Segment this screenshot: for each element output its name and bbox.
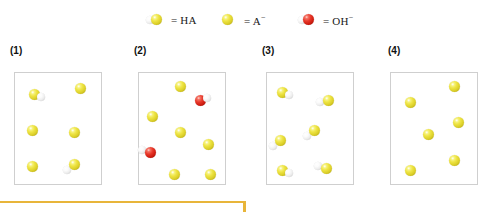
legend-item-label: = HA [171,14,197,26]
yellow-sphere [27,125,38,136]
yellow-sphere [169,169,180,180]
yellow-sphere [449,155,460,166]
yellow-sphere [321,163,332,174]
yellow-sphere [175,127,186,138]
legend-item-label: = A− [244,13,266,27]
yellow-sphere [175,81,186,92]
red-sphere [145,147,156,158]
panel-label-2: (2) [134,45,146,56]
legend-oh-icon [297,12,319,28]
red-sphere [303,14,314,25]
yellow-sphere [405,97,416,108]
particle-a-anion [449,81,471,99]
legend-item-label: = OH− [323,13,353,27]
yellow-sphere [147,111,158,122]
yellow-sphere [449,81,460,92]
yellow-sphere [405,165,416,176]
legend-item-ha: = HA [145,10,197,30]
particle-ha-molecule [321,163,343,181]
yellow-sphere [323,95,334,106]
particle-a-anion [405,97,427,115]
particle-a-anion [423,129,445,147]
yellow-sphere [27,161,38,172]
particle-a-anion [449,155,471,173]
yellow-sphere [309,125,320,136]
legend-a-icon [218,12,240,28]
particle-a-anion [205,169,227,187]
particle-a-anion [27,125,49,143]
white-sphere [285,169,293,177]
particle-a-anion [405,165,427,183]
particle-oh-anion [195,95,217,113]
particle-oh-anion [145,147,167,165]
legend-charge-superscript: − [261,13,266,22]
yellow-sphere [151,14,162,25]
yellow-sphere [222,14,233,25]
particle-ha-molecule [277,87,299,105]
particle-a-anion [75,83,97,101]
panel-1 [14,72,102,185]
yellow-sphere [423,129,434,140]
panel-4 [390,72,478,185]
panel-2 [138,72,226,185]
legend-charge-superscript: − [349,13,354,22]
particle-a-anion [453,117,475,135]
panel-label-4: (4) [388,45,400,56]
white-sphere [285,91,293,99]
yellow-sphere [275,135,286,146]
particle-a-anion [147,111,169,129]
particle-ha-molecule [69,159,91,177]
particle-a-anion [175,127,197,145]
panel-3 [266,72,354,185]
particle-a-anion [27,161,49,179]
white-sphere [37,93,45,101]
legend-item-a-: = A− [218,10,266,30]
white-sphere [203,94,211,102]
particle-a-anion [175,81,197,99]
yellow-sphere [453,117,464,128]
panel-label-3: (3) [262,45,274,56]
particle-ha-molecule [277,165,299,183]
yellow-sphere [69,127,80,138]
accent-bar [0,201,246,212]
particle-ha-molecule [309,125,331,143]
legend-item-oh-: = OH− [297,10,353,30]
yellow-sphere [75,83,86,94]
yellow-sphere [69,159,80,170]
legend-ha-icon [145,12,167,28]
panel-label-1: (1) [10,45,22,56]
particle-a-anion [169,169,191,187]
figure-root: = HA= A−= OH− (1)(2)(3)(4) [0,0,485,212]
yellow-sphere [203,139,214,150]
yellow-sphere [205,169,216,180]
particle-ha-molecule [323,95,345,113]
particle-a-anion [69,127,91,145]
particle-a-anion [203,139,225,157]
particle-ha-molecule [29,89,51,107]
particle-ha-molecule [275,135,297,153]
legend: = HA= A−= OH− [0,10,485,32]
